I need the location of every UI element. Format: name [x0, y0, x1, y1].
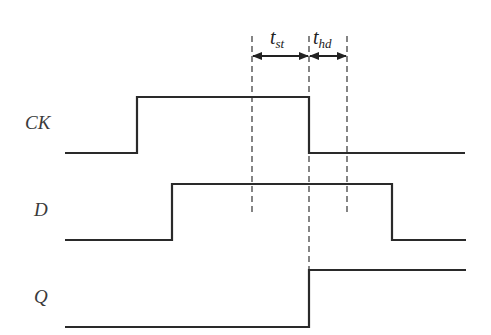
waveform-d [65, 184, 466, 240]
timing-diagram [0, 0, 491, 335]
waveform-q [65, 270, 466, 327]
signal-waveforms [65, 97, 466, 327]
signal-label-q: Q [34, 286, 48, 308]
hold-time-sub: hd [319, 36, 332, 51]
hold-time-label: thd [313, 26, 332, 52]
signal-label-ck: CK [25, 112, 50, 134]
setup-time-sub: st [276, 36, 285, 51]
waveform-ck [65, 97, 465, 153]
signal-label-d: D [34, 199, 48, 221]
setup-time-label: tst [270, 26, 284, 52]
